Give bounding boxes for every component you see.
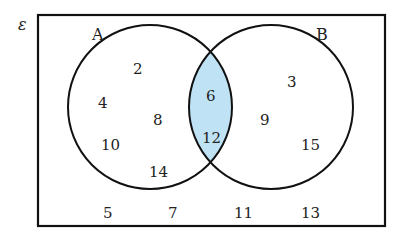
element-14: 14: [149, 163, 168, 181]
element-3: 3: [287, 73, 297, 91]
set-a-label: A: [91, 25, 104, 44]
element-15: 15: [301, 136, 320, 154]
element-5: 5: [103, 204, 113, 222]
set-b-label: B: [316, 25, 328, 44]
element-4: 4: [98, 94, 108, 112]
element-2: 2: [133, 60, 143, 78]
element-12: 12: [202, 129, 221, 147]
element-11: 11: [234, 204, 253, 222]
element-9: 9: [260, 111, 270, 129]
venn-diagram: ε A B 2 4 8 10 14 6 12 3 9 15 5 7 11 13: [0, 0, 400, 242]
element-6: 6: [206, 87, 216, 105]
element-7: 7: [168, 204, 178, 222]
element-8: 8: [153, 111, 163, 129]
element-10: 10: [101, 136, 120, 154]
element-13: 13: [301, 204, 320, 222]
universal-set-label: ε: [18, 15, 27, 34]
